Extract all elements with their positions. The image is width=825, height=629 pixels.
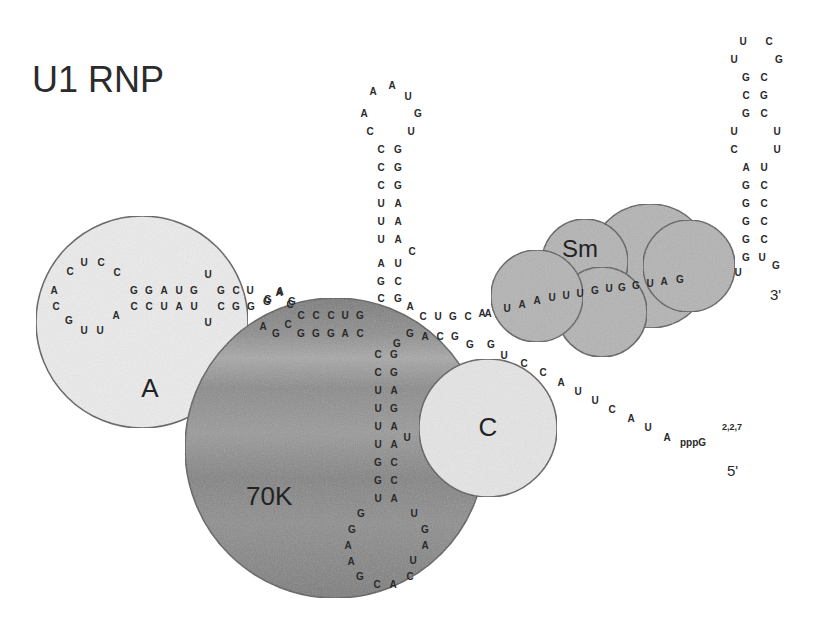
nucleotide: C [419, 311, 426, 322]
nucleotide: G [618, 282, 626, 293]
nucleotide: C [760, 180, 767, 191]
nucleotide: U [190, 301, 197, 312]
nucleotide: G [772, 260, 780, 271]
nucleotide: C [539, 367, 546, 378]
nucleotide: U [407, 126, 414, 137]
u1-rnp-diagram: U1 RNP Sm A 70K C ACUCCCGUUAGGAUGCCUAUUU… [0, 0, 825, 629]
nucleotide: G [327, 328, 335, 339]
nucleotide: U [204, 317, 211, 328]
nucleotide: C [760, 108, 767, 119]
nucleotide: U [374, 403, 381, 414]
nucleotide: C [765, 36, 772, 47]
nucleotide: G [190, 285, 198, 296]
nucleotide: G [377, 276, 385, 287]
nucleotide: A [377, 258, 384, 269]
nucleotide: C [232, 285, 239, 296]
nucleotide: U [377, 234, 384, 245]
nucleotide: U [374, 493, 381, 504]
nucleotide: G [356, 571, 364, 582]
nucleotide: U [574, 386, 581, 397]
nucleotide: C [374, 367, 381, 378]
nucleotide: A [341, 328, 348, 339]
nucleotide: U [644, 422, 651, 433]
nucleotide: A [388, 80, 395, 91]
nucleotide: C [408, 246, 415, 257]
nucleotide: A [50, 285, 57, 296]
nucleotide: A [484, 308, 491, 319]
nucleotide: U [730, 126, 737, 137]
nucleotide: A [344, 540, 351, 551]
nucleotide: A [369, 86, 376, 97]
five-prime-end-label: 5' [727, 462, 738, 479]
nucleotide: G [591, 285, 599, 296]
nucleotide: C [394, 276, 401, 287]
nucleotide: G [742, 252, 750, 263]
nucleotide: U [548, 292, 555, 303]
nucleotide: A [160, 285, 167, 296]
nucleotide: A [406, 301, 413, 312]
nucleotide: G [775, 54, 783, 65]
nucleotide: C [377, 162, 384, 173]
nucleotide: A [421, 540, 428, 551]
nucleotide: G [406, 328, 414, 339]
nucleotide: C [297, 310, 304, 321]
nucleotide: C [730, 144, 737, 155]
nucleotide: A [394, 198, 401, 209]
protein-a-label: A [141, 373, 159, 403]
nucleotide: G [742, 72, 750, 83]
nucleotide: U [341, 310, 348, 321]
nucleotide: G [394, 180, 402, 191]
nucleotide: G [449, 311, 457, 322]
nucleotide: U [377, 198, 384, 209]
nucleotide: A [276, 286, 283, 297]
nucleotide: G [356, 310, 364, 321]
nucleotide: A [663, 432, 670, 443]
nucleotide: G [374, 457, 382, 468]
nucleotide: U [374, 439, 381, 450]
nucleotide: C [520, 358, 527, 369]
protein-c-label: C [479, 412, 498, 442]
nucleotide: A [660, 276, 667, 287]
nucleotide: C [356, 328, 363, 339]
protein-sm-label: Sm [562, 235, 598, 262]
nucleotide: G [394, 293, 402, 304]
nucleotide: G [390, 349, 398, 360]
nucleotide: A [627, 413, 634, 424]
nucleotide: U [80, 257, 87, 268]
nucleotide: U [500, 350, 507, 361]
nucleotide: C [390, 457, 397, 468]
nucleotide: A [742, 162, 749, 173]
nucleotide: A [518, 299, 525, 310]
nucleotide: G [272, 328, 280, 339]
nucleotide: C [760, 72, 767, 83]
nucleotide: G [390, 403, 398, 414]
nucleotide: G [232, 301, 240, 312]
nucleotide: U [80, 325, 87, 336]
nucleotide: C [377, 180, 384, 191]
nucleotide: U [773, 144, 780, 155]
three-prime-end-label: 3' [770, 286, 781, 303]
nucleotide: U [562, 290, 569, 301]
nucleotide: A [390, 385, 397, 396]
nucleotide: C [436, 331, 443, 342]
nucleotide: G [742, 216, 750, 227]
nucleotide: C [130, 301, 137, 312]
protein-70k-label: 70K [246, 481, 293, 511]
nucleotide: U [374, 421, 381, 432]
nucleotide: G [312, 328, 320, 339]
nucleotide: A [347, 556, 354, 567]
cap-label: pppG [680, 437, 706, 448]
rna-segment-stem-loop-II: AAUAGCUCGCGCGUAUAUACAUGCCG [360, 80, 422, 304]
nucleotide: C [374, 349, 381, 360]
nucleotide: G [742, 234, 750, 245]
rna-segment-stem-loop-IV: UCUGGCCGGCUUCUAUGCGCGCGCGUG [730, 36, 783, 271]
sm-subunit-3 [643, 220, 735, 312]
nucleotide: A [259, 321, 266, 332]
nucleotide: C [113, 267, 120, 278]
nucleotide: C [327, 310, 334, 321]
nucleotide: G [632, 280, 640, 291]
nucleotide: C [97, 257, 104, 268]
nucleotide: U [374, 385, 381, 396]
nucleotide: U [96, 325, 103, 336]
nucleotide: G [742, 108, 750, 119]
